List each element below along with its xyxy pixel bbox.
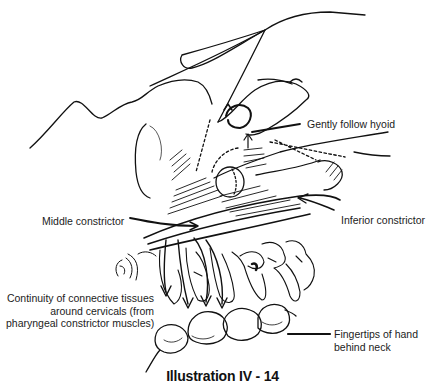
ear-sketch [116,254,138,280]
fingertips-row [146,305,296,373]
muscle-hatching [168,148,342,216]
jaw-outline [30,80,212,148]
fingertips-line-2: behind neck [334,341,418,354]
connective-arrows [161,238,227,308]
caption-text: Illustration IV - 14 [166,368,279,384]
fingertip-circle [216,167,244,197]
connective-line-2: around cervicals (from [6,305,154,318]
inferior-constrictor-leader [300,198,334,210]
label-connective-tissues: Continuity of connective tissues around … [6,292,154,330]
head-outline [150,12,365,86]
throat-outline [135,124,150,198]
label-middle-constrictor: Middle constrictor [42,215,124,228]
fingertips-line-1: Fingertips of hand [334,328,418,341]
label-inferior-constrictor: Inferior constrictor [341,214,425,227]
ear-line [181,30,265,68]
label-gently-follow-hyoid: Gently follow hyoid [307,118,395,131]
figure-caption: Illustration IV - 14 [0,368,433,384]
cervical-vertebrae [160,241,315,304]
finger-outline [214,132,388,190]
hyoid-leader [252,124,300,132]
label-fingertips: Fingertips of hand behind neck [334,328,418,353]
rotation-arrow [226,105,251,128]
constrictor-bands [144,195,340,250]
connective-line-3: pharyngeal constrictor muscles) [6,317,154,330]
connective-line-1: Continuity of connective tissues [6,292,154,305]
